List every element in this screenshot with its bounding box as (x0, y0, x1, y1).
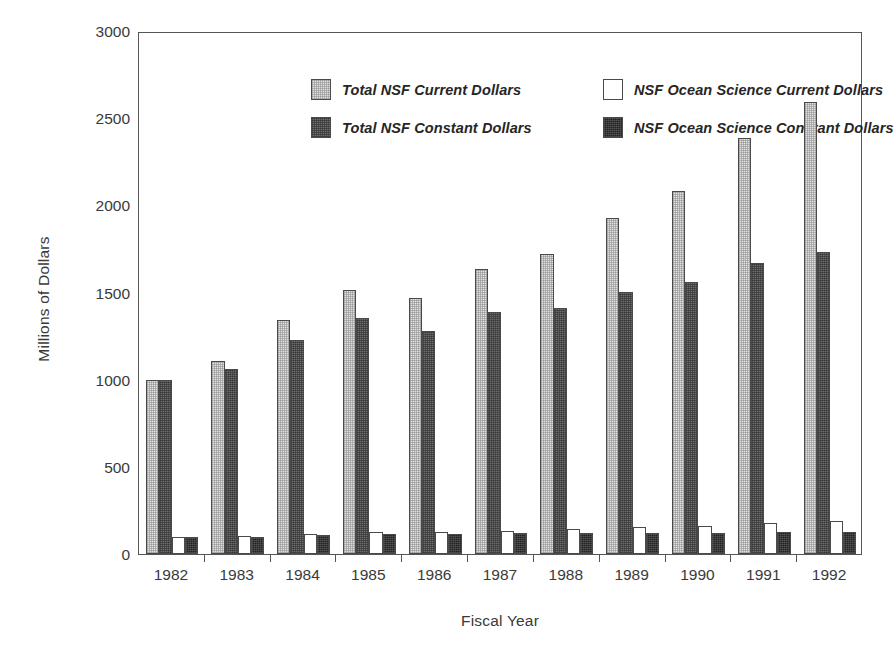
y-axis-tick-label: 1000 (58, 372, 130, 390)
bar (475, 269, 488, 554)
bar (843, 532, 856, 554)
bar (514, 533, 527, 554)
bar (698, 526, 711, 554)
bar (383, 534, 396, 554)
x-axis-tick-label: 1986 (399, 566, 469, 584)
bar (317, 535, 330, 554)
x-axis-tick-mark (270, 555, 271, 562)
x-axis-title: Fiscal Year (138, 612, 862, 630)
bar (225, 369, 238, 554)
bar (290, 340, 303, 554)
bar (751, 263, 764, 554)
legend-entry: NSF Ocean Science Current Dollars (603, 79, 883, 100)
x-axis-tick-mark (533, 555, 534, 562)
plot-area: Total NSF Current DollarsTotal NSF Const… (138, 32, 862, 555)
bar (146, 380, 159, 554)
x-axis-tick-mark (204, 555, 205, 562)
x-axis-tick-mark (335, 555, 336, 562)
bar (356, 318, 369, 554)
bar (448, 534, 461, 554)
x-axis-tick-mark (730, 555, 731, 562)
bar (501, 531, 514, 554)
bar (830, 521, 843, 554)
legend-entry: Total NSF Constant Dollars (311, 117, 532, 138)
y-axis-tick-label: 0 (58, 546, 130, 564)
bar (764, 523, 777, 554)
legend-entry: Total NSF Current Dollars (311, 79, 521, 100)
bar (738, 138, 751, 554)
x-axis-tick-label: 1991 (728, 566, 798, 584)
bar (817, 252, 830, 554)
x-axis-tick-label: 1985 (333, 566, 403, 584)
legend-swatch (311, 117, 331, 138)
legend-swatch (603, 117, 623, 138)
x-axis-tick-mark (401, 555, 402, 562)
y-axis-tick-label: 1500 (58, 285, 130, 303)
legend-label: NSF Ocean Science Current Dollars (634, 82, 883, 98)
x-axis-tick-mark (665, 555, 666, 562)
x-axis-tick-label: 1990 (662, 566, 732, 584)
x-axis-tick-label: 1992 (794, 566, 864, 584)
bar (619, 292, 632, 554)
bar (211, 361, 224, 554)
bar (369, 532, 382, 554)
bar (409, 298, 422, 554)
y-axis-tick-label: 500 (58, 459, 130, 477)
bar (251, 537, 264, 554)
x-axis-tick-label: 1984 (268, 566, 338, 584)
y-axis-tick-label: 2000 (58, 197, 130, 215)
legend-label: NSF Ocean Science Constant Dollars (634, 120, 894, 136)
bar (712, 533, 725, 554)
bar (567, 529, 580, 554)
bar (540, 254, 553, 554)
bar (159, 380, 172, 554)
legend-label: Total NSF Constant Dollars (342, 120, 532, 136)
y-axis-tick-label: 3000 (58, 23, 130, 41)
x-axis-tick-mark (467, 555, 468, 562)
bar (606, 218, 619, 554)
bar (238, 536, 251, 554)
bar (672, 191, 685, 554)
x-axis-tick-label: 1987 (465, 566, 535, 584)
bar-chart: Millions of Dollars 05001000150020002500… (0, 0, 896, 655)
y-axis-title: Millions of Dollars (35, 189, 53, 409)
bar (488, 312, 501, 554)
bar (435, 532, 448, 554)
x-axis-tick-label: 1989 (597, 566, 667, 584)
legend-entry: NSF Ocean Science Constant Dollars (603, 117, 894, 138)
bar (646, 533, 659, 554)
bar (277, 320, 290, 554)
bar (185, 537, 198, 554)
bar (633, 527, 646, 554)
bar (343, 290, 356, 554)
y-axis-tick-label: 2500 (58, 110, 130, 128)
x-axis-tick-label: 1982 (136, 566, 206, 584)
x-axis-tick-label: 1988 (531, 566, 601, 584)
x-axis-tick-mark (599, 555, 600, 562)
bar (777, 532, 790, 554)
legend-swatch (311, 79, 331, 100)
x-axis-tick-label: 1983 (202, 566, 272, 584)
bar (304, 534, 317, 554)
x-axis-tick-mark (796, 555, 797, 562)
bar (580, 533, 593, 554)
bar (685, 282, 698, 554)
bar (422, 331, 435, 554)
legend-swatch (603, 79, 623, 100)
bar (554, 308, 567, 554)
bar (804, 102, 817, 554)
bar (172, 537, 185, 554)
legend-label: Total NSF Current Dollars (342, 82, 521, 98)
